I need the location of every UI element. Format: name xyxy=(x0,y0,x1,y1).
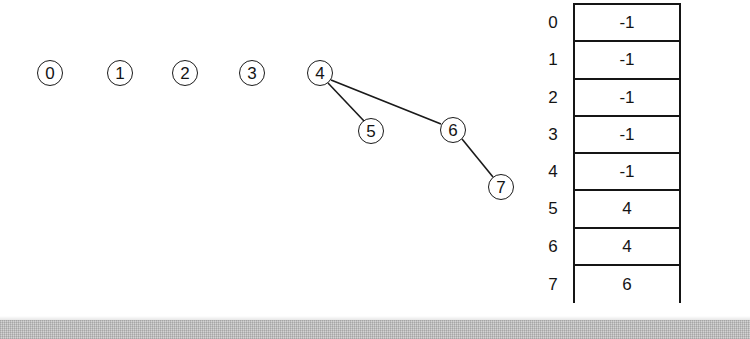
array-cell-value: 4 xyxy=(622,200,631,217)
array-row-index: 3 xyxy=(545,126,561,143)
array-cell-value: -1 xyxy=(619,163,634,180)
edges-group xyxy=(328,80,493,177)
array-row-index: 0 xyxy=(545,14,561,31)
graph-node-6[interactable]: 6 xyxy=(440,117,466,143)
graph-node-label: 6 xyxy=(448,122,457,139)
parent-array-table: 0-11-12-13-14-1546476 xyxy=(573,3,681,303)
array-row[interactable]: 54 xyxy=(575,191,679,228)
array-row[interactable]: 0-1 xyxy=(575,5,679,42)
array-cell-value: -1 xyxy=(619,51,634,68)
edge-4-to-6 xyxy=(331,80,441,124)
array-row-index: 1 xyxy=(545,51,561,68)
graph-node-3[interactable]: 3 xyxy=(239,60,265,86)
graph-node-5[interactable]: 5 xyxy=(358,118,384,144)
array-row[interactable]: 4-1 xyxy=(575,154,679,191)
array-row[interactable]: 2-1 xyxy=(575,80,679,117)
edge-4-to-5 xyxy=(328,83,364,121)
array-row[interactable]: 1-1 xyxy=(575,42,679,79)
array-cell-value: -1 xyxy=(619,126,634,143)
array-row-index: 5 xyxy=(545,200,561,217)
graph-node-label: 0 xyxy=(45,65,54,82)
array-cell-value: -1 xyxy=(619,89,634,106)
graph-node-0[interactable]: 0 xyxy=(37,60,63,86)
array-cell-value: -1 xyxy=(619,14,634,31)
figure-canvas: 01234567 0-11-12-13-14-1546476 xyxy=(0,0,750,339)
array-row-index: 2 xyxy=(545,89,561,106)
graph-node-label: 4 xyxy=(315,65,324,82)
array-row-index: 4 xyxy=(545,163,561,180)
array-cell-value: 6 xyxy=(622,276,631,293)
array-row-index: 7 xyxy=(545,276,561,293)
edge-6-to-7 xyxy=(462,139,493,177)
graph-node-label: 2 xyxy=(180,65,189,82)
scan-artifact-band xyxy=(0,320,750,339)
array-row-index: 6 xyxy=(545,238,561,255)
array-cell-value: 4 xyxy=(622,238,631,255)
graph-node-7[interactable]: 7 xyxy=(488,174,514,200)
graph-node-1[interactable]: 1 xyxy=(107,60,133,86)
array-row[interactable]: 76 xyxy=(575,266,679,303)
graph-node-4[interactable]: 4 xyxy=(307,60,333,86)
graph-node-label: 7 xyxy=(496,179,505,196)
graph-node-label: 3 xyxy=(247,65,256,82)
graph-node-2[interactable]: 2 xyxy=(172,60,198,86)
graph-node-label: 1 xyxy=(115,65,124,82)
array-row[interactable]: 64 xyxy=(575,229,679,266)
graph-node-label: 5 xyxy=(366,123,375,140)
array-row[interactable]: 3-1 xyxy=(575,117,679,154)
